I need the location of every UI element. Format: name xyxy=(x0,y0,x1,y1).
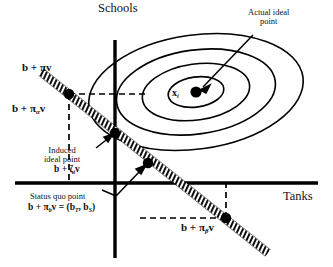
label-b-plus-pi-v: b + πv xyxy=(22,62,51,74)
diagram-canvas xyxy=(0,0,333,267)
sq-prefix: b + xyxy=(28,202,43,212)
induced-ideal-point-annotation: Induced ideal point xyxy=(44,146,80,164)
arrow-actual-ideal xyxy=(203,35,253,87)
pi-alpha-point-marker xyxy=(64,89,74,99)
ideal-point-subscript: i xyxy=(177,92,179,99)
spatial-voting-diagram: Schools Tanks Actual ideal point xi b + … xyxy=(0,0,333,267)
status-quo-annotation: Status quo point xyxy=(30,192,85,201)
sq-eq-close: ) xyxy=(92,202,95,212)
pi-beta-v: v xyxy=(208,221,214,233)
label-status-quo-equation: b + πbv = (bT, bS) xyxy=(28,203,95,213)
sq-eq-mid: , b xyxy=(79,202,89,212)
axis-label-tanks: Tanks xyxy=(283,190,313,203)
label-b-plus-pi-beta-v: b + πβv xyxy=(181,222,214,234)
pi-alpha-v: v xyxy=(40,102,46,114)
pi-alpha-prefix: b + xyxy=(12,102,30,114)
zeta-prefix: b + xyxy=(54,164,69,174)
actual-ideal-line2: point xyxy=(260,16,277,26)
actual-ideal-point-marker xyxy=(190,86,201,97)
induced-line2: ideal point xyxy=(44,154,80,164)
label-b-plus-zeta-i-v: b + ζiv xyxy=(54,165,80,175)
zeta-v: v xyxy=(75,164,80,174)
pi-beta-prefix: b + xyxy=(181,221,199,233)
actual-ideal-point-annotation: Actual ideal point xyxy=(248,8,289,26)
label-b-plus-pi-alpha-v: b + παv xyxy=(12,103,45,115)
sq-eq-open: v = (b xyxy=(52,202,75,212)
pi-beta-point-marker xyxy=(221,213,231,223)
ideal-point-symbol: xi xyxy=(172,88,179,99)
axis-label-schools: Schools xyxy=(98,2,138,15)
